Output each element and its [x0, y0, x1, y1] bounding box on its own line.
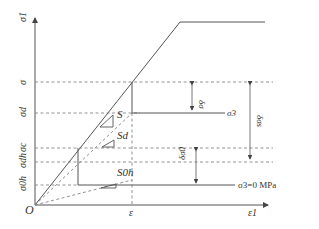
slope-label-s: S [117, 108, 123, 120]
confining-label-zero: σ3=0 MPa [238, 180, 276, 190]
delta-label-sigma-0: δσ0 [177, 146, 187, 160]
level-label-sigma-0h: σ0h [17, 176, 28, 191]
delta-label-sigma: δσ [197, 100, 207, 109]
level-label-sigma-c: σc [17, 142, 28, 152]
y-axis-label: σ1 [17, 12, 28, 22]
level-label-sigma-d: σd [17, 106, 28, 117]
level-label-sigma-dh: σdh [17, 153, 28, 168]
stress-strain-diagram: σ1 σ σd σc σdh σ0h O ε ε1 S Sd S0h σ3 σ3… [0, 0, 319, 229]
confining-label-sigma3: σ3 [227, 108, 236, 118]
x-axis-label: ε1 [248, 207, 257, 218]
slope-triangles [100, 115, 116, 188]
delta-label-sigma-s: δσs [255, 115, 265, 128]
slope-label-sd: Sd [117, 129, 129, 141]
slope-label-s0h: S0h [117, 166, 134, 178]
origin-label: O [25, 203, 34, 217]
reference-lines [78, 82, 235, 185]
x-tick-epsilon: ε [129, 207, 133, 218]
level-label-sigma: σ [17, 79, 28, 85]
